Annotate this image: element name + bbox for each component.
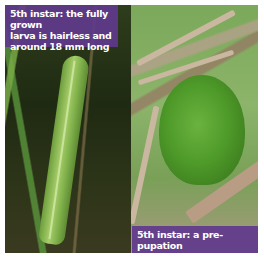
caption-line: 5th instar: the fully grown (10, 8, 112, 30)
caption-line: around 18 mm long (10, 41, 112, 52)
caption-line: larva is hairless and (10, 30, 112, 41)
caption-left: 5th instar: the fully grown larva is hai… (5, 5, 118, 47)
curled-green-larva (159, 75, 245, 185)
photo-spread: 5th instar: the fully grown larva is hai… (5, 5, 258, 253)
photo-right-pre-pupation-larva (131, 5, 258, 253)
caption-right: 5th instar: a pre-pupation larva (132, 226, 258, 253)
dry-stem (131, 106, 159, 225)
caption-line: 5th instar: a pre-pupation (137, 229, 252, 251)
long-green-larva (38, 54, 90, 246)
caption-line: larva (137, 251, 252, 258)
